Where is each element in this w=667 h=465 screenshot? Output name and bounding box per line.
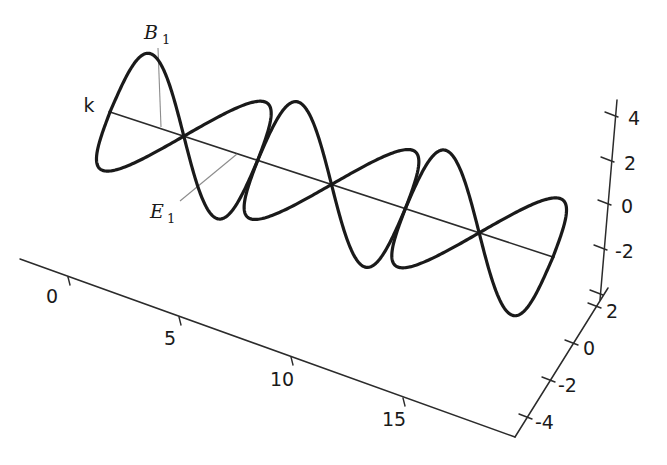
- propagation-tick-5: [179, 317, 181, 325]
- propagation-tick-label-0: 0: [46, 285, 58, 307]
- depth-tick-label-neg4: -4: [535, 411, 554, 433]
- electric-leader-line: [180, 154, 237, 201]
- electric-field-label: E 1: [149, 200, 175, 226]
- depth-tick-0: [565, 340, 578, 345]
- plot-canvas: 0 5 10 15 4 2 0 -2 2 0 -2 -4 k B: [0, 0, 667, 465]
- depth-tick-neg2: [542, 377, 555, 382]
- vertical-tick-label-0: 0: [621, 195, 633, 217]
- vertical-axis-line: [600, 100, 617, 300]
- wave-group: [96, 53, 566, 315]
- propagation-direction-label: k: [83, 94, 94, 116]
- depth-axis-line: [515, 288, 608, 437]
- propagation-tick-0: [68, 277, 70, 285]
- electric-field-label-text: E: [149, 200, 164, 222]
- propagation-tick-label-10: 10: [270, 368, 294, 390]
- em-wave-figure: 0 5 10 15 4 2 0 -2 2 0 -2 -4 k B: [0, 0, 667, 465]
- magnetic-field-curve: [110, 53, 553, 315]
- propagation-axis-line: [20, 259, 515, 437]
- propagation-tick-label-5: 5: [164, 327, 176, 349]
- propagation-tick-15: [403, 398, 405, 406]
- depth-tick-label-0: 0: [583, 337, 595, 359]
- magnetic-field-label-text: B: [143, 21, 158, 43]
- depth-tick-neg4: [519, 414, 532, 419]
- magnetic-field-label: B 1: [143, 21, 170, 47]
- propagation-tick-10: [291, 357, 293, 365]
- vertical-tick-label-2: 2: [624, 152, 636, 174]
- propagation-tick-label-15: 15: [382, 408, 406, 430]
- depth-tick-label-neg2: -2: [558, 374, 577, 396]
- electric-field-label-subscript: 1: [167, 211, 175, 226]
- depth-tick-label-2: 2: [606, 300, 618, 322]
- vertical-tick-label-neg2: -2: [615, 240, 634, 262]
- vertical-tick-label-4: 4: [628, 107, 640, 129]
- magnetic-field-label-subscript: 1: [162, 32, 170, 47]
